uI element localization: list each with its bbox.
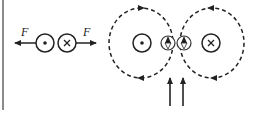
wire-out-of-page-icon (36, 34, 54, 52)
loop-arrow-bottom-left (137, 75, 144, 81)
wire-into-page-icon (202, 34, 220, 52)
wire-into-page-icon (58, 34, 76, 52)
force-label-right: F (82, 25, 91, 39)
loop-arrow-top-right (207, 5, 214, 11)
compass-left-icon (161, 36, 175, 50)
magnetic-field-diagram: F F (0, 0, 259, 113)
force-label-left: F (20, 25, 29, 39)
wire-out-of-page-icon (133, 34, 151, 52)
loop-arrow-bottom-right (210, 75, 217, 81)
compass-right-icon (177, 36, 191, 50)
loop-arrow-top-left (138, 5, 145, 11)
